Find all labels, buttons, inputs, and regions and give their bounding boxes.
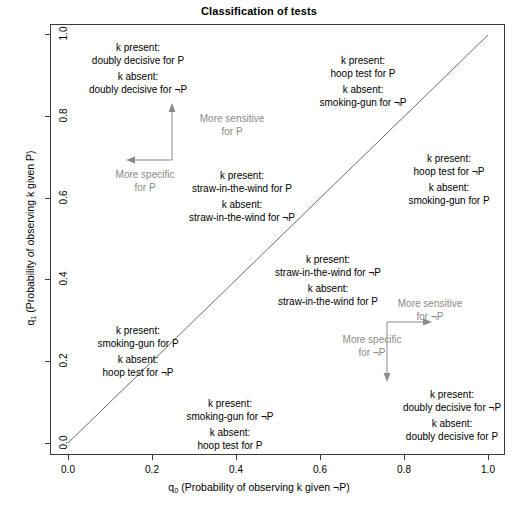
note-line: hoop test for ¬P [414,166,485,177]
note-gap [320,80,407,83]
note-gap [97,350,178,353]
note-line: k absent: [118,354,159,365]
note-gap [189,195,295,198]
note-line: smoking-gun for P [408,195,489,206]
arrow-sensitive-specific-for-P [120,100,190,170]
note-gap [89,67,187,70]
arrow-label-line: for P [134,182,155,193]
arrow-label-more-specific-for-notP: More specific for ¬P [343,333,402,359]
y-axis-title: q1 (Probability of observing k given P) [24,18,36,458]
x-tick-2 [236,455,237,460]
annotation-straw-upper-middle: k present: straw-in-the-wind for P k abs… [189,169,295,224]
note-line: k absent: [343,84,384,95]
note-line: k present: [208,398,252,409]
x-ticklabel-5: 1.0 [468,464,508,475]
note-line: k absent: [210,427,251,438]
x-tick-1 [152,455,153,460]
note-gap [403,414,501,417]
y-ticklabel-2-text: 0.4 [59,272,70,286]
page-bottom-edge [0,498,518,506]
x-axis-title-sub: 0 [174,486,178,495]
annotation-smoking-hoop-bottom-middle: k present: smoking-gun for ¬P k absent: … [187,397,274,452]
arrow-label-line: More specific [343,334,402,345]
note-gap [187,423,274,426]
note-line: hoop test for ¬P [103,367,174,378]
x-ticklabel-0: 0.0 [48,464,88,475]
x-axis-title-rest: (Probability of observing k given ¬P) [178,481,349,493]
x-tick-3 [320,455,321,460]
arrow-label-line: for ¬P [359,347,386,358]
x-ticklabel-2: 0.4 [216,464,256,475]
arrow-label-line: More specific [116,169,175,180]
note-line: k present: [427,153,471,164]
y-ticklabel-0: 0.0 [44,437,84,448]
y-ticklabel-5-text: 1.0 [59,27,70,41]
note-line: smoking-gun for ¬P [187,411,274,422]
note-line: k absent: [429,182,470,193]
annotation-doubly-decisive-bottom-right: k present: doubly decisive for ¬P k abse… [403,388,501,443]
y-ticklabel-4-text: 0.8 [59,109,70,123]
arrow-label-more-specific-for-P: More specific for P [116,168,175,194]
arrow-label-more-sensitive-for-P: More sensitive for P [200,112,264,138]
x-tick-0 [68,455,69,460]
note-line: straw-in-the-wind for ¬P [275,267,381,278]
note-line: straw-in-the-wind for P [278,296,378,307]
note-line: hoop test for P [330,68,395,79]
y-ticklabel-3: 0.6 [44,192,84,203]
note-line: doubly decisive for P [406,431,498,442]
x-tick-5 [488,455,489,460]
arrow-label-line: More sensitive [200,113,264,124]
x-ticklabel-1: 0.2 [132,464,172,475]
annotation-doubly-decisive-upper-left: k present: doubly decisive for P k absen… [89,41,187,96]
note-line: smoking-gun for P [97,338,178,349]
y-axis-title-sub: 1 [29,316,38,320]
y-ticklabel-5: 1.0 [44,28,84,39]
y-ticklabel-4: 0.8 [44,110,84,121]
note-line: doubly decisive for P [92,55,184,66]
note-line: k present: [341,55,385,66]
annotation-smoking-hoop-lower-left: k present: smoking-gun for P k absent: h… [97,324,178,379]
annotation-hoop-smoking-right: k present: hoop test for ¬P k absent: sm… [408,152,489,207]
arrow-label-line: More sensitive [398,298,462,309]
note-gap [408,178,489,181]
annotation-hoop-smoking-upper-right: k present: hoop test for P k absent: smo… [320,54,407,109]
note-line: k present: [306,254,350,265]
note-line: k absent: [308,283,349,294]
x-ticklabel-3: 0.6 [300,464,340,475]
x-ticklabel-4: 0.8 [384,464,424,475]
note-line: k present: [220,170,264,181]
y-axis-title-rest: (Probability of observing k given P) [24,150,36,315]
chart-screenshot: Classification of tests 0.0 0.2 0.4 0.6 … [0,0,518,506]
note-line: smoking-gun for ¬P [320,97,407,108]
y-ticklabel-3-text: 0.6 [59,191,70,205]
note-line: k present: [116,42,160,53]
note-line: k absent: [432,418,473,429]
y-ticklabel-0-text: 0.0 [59,436,70,450]
arrow-label-line: for P [221,126,242,137]
y-axis-title-base: q [24,320,36,326]
note-line: k absent: [118,71,159,82]
note-gap [275,279,381,282]
note-line: doubly decisive for ¬P [89,84,187,95]
note-line: hoop test for P [197,440,262,451]
note-line: k absent: [222,199,263,210]
annotation-straw-lower-middle: k present: straw-in-the-wind for ¬P k ab… [275,253,381,308]
page-title: Classification of tests [0,5,518,17]
x-axis-title: q0 (Probability of observing k given ¬P) [0,481,518,493]
arrow-label-line: for ¬P [417,311,444,322]
note-line: straw-in-the-wind for ¬P [189,212,295,223]
arrow-label-more-sensitive-for-notP: More sensitive for ¬P [398,297,462,323]
y-ticklabel-2: 0.4 [44,273,84,284]
note-line: doubly decisive for ¬P [403,402,501,413]
x-tick-4 [404,455,405,460]
y-ticklabel-1: 0.2 [44,355,84,366]
y-ticklabel-1-text: 0.2 [59,354,70,368]
note-line: k present: [116,325,160,336]
note-line: straw-in-the-wind for P [192,183,292,194]
